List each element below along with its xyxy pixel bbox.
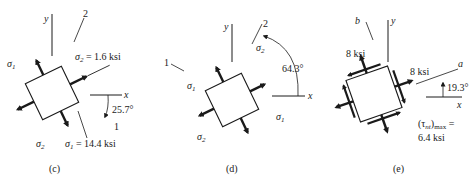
axis-1-label: 1 [164, 57, 169, 68]
stress-element-diagrams: y 2 x 1 25.7° σ1 σ2 σ2 = 1.6 ksi σ1 = [0, 0, 475, 181]
y-axis-label: y [390, 15, 396, 26]
sigma1-left-label: σ1 [187, 80, 195, 93]
tau-max-value: 6.4 ksi [418, 132, 445, 143]
y-axis-label: y [43, 13, 49, 24]
x-axis-label: x [307, 90, 313, 101]
sigma1-right-label: σ1 [276, 111, 284, 124]
axis-2-line [252, 24, 262, 44]
sigma1-arrow-left [18, 102, 34, 110]
stress-top-label: 8 ksi [346, 48, 365, 59]
x-axis-label: x [123, 89, 129, 100]
axis-2-label: 2 [83, 8, 88, 19]
panel-c-caption: (c) [49, 163, 60, 175]
axis-1-line [171, 64, 184, 71]
angle-label: 19.3° [447, 82, 469, 93]
panel-c: y 2 x 1 25.7° σ1 σ2 σ2 = 1.6 ksi σ1 = [2, 8, 133, 175]
sigma1-arrow-left [200, 109, 214, 116]
sigma2-value-label: σ2 = 1.6 ksi [75, 51, 121, 64]
axis-a-label: a [458, 58, 463, 69]
axis-1-label: 1 [114, 121, 119, 132]
stress-right-label: 8 ksi [410, 66, 429, 77]
sigma2-arrow-down [61, 111, 68, 125]
stress-element [205, 73, 258, 126]
sigma1-label: σ1 [7, 58, 15, 71]
axis-b-line [366, 22, 373, 40]
sigma2-bottom-label: σ2 [197, 131, 206, 144]
sigma1-arrow-right [250, 84, 264, 91]
sigma2-label: σ2 [36, 138, 45, 151]
sigma2-top-label: σ2 [256, 42, 265, 55]
sigma1-value-label: σ1 = 14.4 ksi [65, 138, 116, 151]
sigma2-arrow-down [241, 118, 248, 132]
angle-label: 64.3° [282, 63, 304, 74]
sigma1-arrow-right [70, 77, 86, 85]
panel-e-caption: (e) [393, 163, 404, 175]
stress-element [25, 66, 78, 119]
panel-d-caption: (d) [226, 163, 238, 175]
axis-2-line [74, 18, 84, 42]
angle-arc [105, 95, 108, 117]
y-axis-label: y [223, 21, 229, 32]
axis-2-label: 2 [263, 18, 268, 29]
axis-1-line [88, 65, 110, 75]
sigma2-arrow-up [36, 61, 43, 75]
tau-max-label: (τnt)max = [418, 118, 455, 131]
panel-e: y b a x 19.3° 8 ksi 8 ksi [323, 15, 468, 175]
sigma1-leader-line [78, 111, 87, 138]
x-axis-label: x [456, 99, 462, 110]
panel-d: y 2 1 x 64.3° σ1 σ1 σ2 σ2 (d) [164, 18, 313, 175]
sigma2-arrow-up [216, 68, 223, 82]
angle-label: 25.7° [112, 104, 134, 115]
axis-b-label: b [355, 15, 360, 26]
